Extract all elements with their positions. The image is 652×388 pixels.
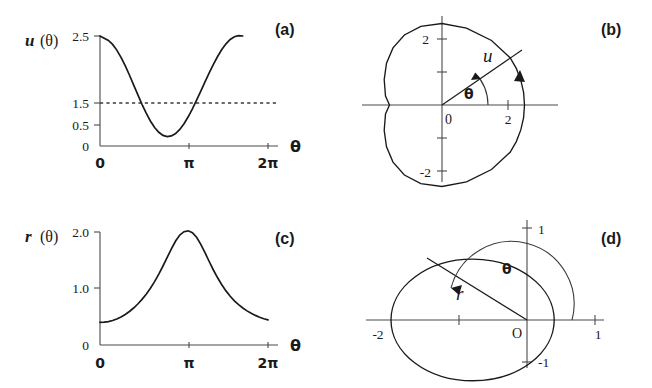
- panel-c-xtick-label-2pi: 2π: [258, 355, 279, 371]
- panel-b-direction-arrowhead-icon: [514, 70, 525, 82]
- panel-b-radius-vector: [442, 50, 522, 105]
- panel-c-ylabel-argument: (θ): [40, 228, 58, 246]
- panel-b-tag: (b): [601, 21, 621, 38]
- panel-d-polar-ellipse: r θ O 1 -1 -2 1 (d): [326, 194, 652, 388]
- panel-d-origin-label: O: [512, 326, 522, 341]
- panel-b-ytick-label-neg2: -2: [420, 165, 431, 180]
- panel-c-ylabel-variable: r: [25, 227, 32, 246]
- panel-d-xtick-label-1: 1: [595, 327, 602, 342]
- panel-d-vector-label: r: [456, 283, 464, 304]
- panel-a-u-vs-theta: u (θ) 2.5 1.5 0.5 0 0 π 2π θ (a): [0, 0, 326, 194]
- panel-c-xtick-label-0: 0: [95, 355, 105, 371]
- panel-c-curve-r: [100, 231, 268, 323]
- panel-d-ytick-label-neg1: -1: [538, 355, 549, 370]
- panel-c-xtick-label-pi: π: [183, 355, 194, 371]
- panel-d-theta-arc: [451, 241, 574, 320]
- panel-b-polar-limacon: u θ 0 2 -2 2 (b): [326, 0, 652, 194]
- panel-b-origin-label: 0: [445, 112, 452, 127]
- panel-c-ytick-label-1_0: 1.0: [72, 281, 89, 296]
- panel-d-angle-label: θ: [502, 261, 512, 277]
- panel-d-tag: (d): [601, 230, 621, 247]
- panel-b-theta-arrowhead-icon: [471, 73, 481, 80]
- panel-c-ytick-label-2_0: 2.0: [72, 225, 89, 240]
- panel-a-ytick-label-2_5: 2.5: [72, 29, 89, 44]
- panel-c-xlabel: θ: [290, 336, 301, 355]
- panel-a-tag: (a): [275, 21, 295, 38]
- panel-a-ytick-label-1_5: 1.5: [72, 96, 89, 111]
- panel-a-xlabel: θ: [290, 137, 301, 156]
- panel-d-xtick-label-neg2: -2: [372, 327, 383, 342]
- panel-b-angle-label: θ: [464, 86, 474, 102]
- panel-a-ylabel-argument: (θ): [40, 32, 58, 50]
- panel-a-curve-u: [100, 36, 243, 137]
- panel-a-ytick-label-0: 0: [82, 139, 89, 154]
- panel-a-ytick-label-0_5: 0.5: [72, 118, 89, 133]
- panel-a-xtick-label-0: 0: [95, 155, 105, 171]
- panel-b-vector-label: u: [483, 45, 493, 66]
- panel-c-tag: (c): [275, 230, 295, 247]
- panel-b-xtick-label-2: 2: [505, 112, 512, 127]
- four-panel-figure: u (θ) 2.5 1.5 0.5 0 0 π 2π θ (a): [0, 0, 652, 388]
- panel-c-r-vs-theta: r (θ) 2.0 1.0 0 0 π 2π θ (c): [0, 194, 326, 388]
- panel-a-xtick-label-pi: π: [183, 155, 194, 171]
- panel-a-ylabel-variable: u: [25, 31, 34, 50]
- panel-b-ytick-label-2: 2: [422, 32, 429, 47]
- panel-a-xtick-label-2pi: 2π: [258, 155, 279, 171]
- panel-d-ytick-label-1: 1: [538, 222, 545, 237]
- panel-c-ytick-label-0: 0: [82, 338, 89, 353]
